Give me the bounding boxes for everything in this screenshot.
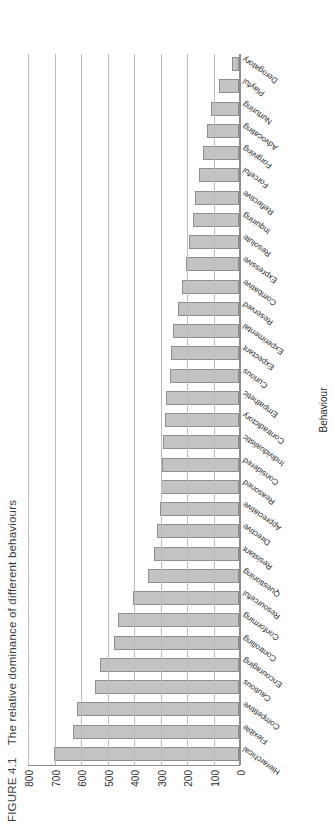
category-label-text: Curious — [241, 366, 269, 390]
category-label-text: Flexible — [241, 722, 269, 746]
category-label-text: Forceful — [241, 166, 270, 190]
value-gridline: 700 — [55, 54, 56, 765]
value-tick-label: 300 — [156, 770, 167, 787]
category-axis-title: Behaviour — [318, 54, 329, 766]
figure-number: FIGURE 4.1 — [6, 757, 18, 822]
value-gridline: 600 — [81, 54, 82, 765]
value-tick-label: 600 — [77, 770, 88, 787]
figure-caption-text: The relative dominance of different beha… — [6, 500, 18, 746]
value-gridline: 800 — [28, 54, 29, 765]
category-label-text: Playful — [241, 77, 266, 98]
value-gridline: 500 — [108, 54, 109, 765]
category-label-text: Hierarchical — [241, 745, 282, 777]
value-tick-label: 400 — [130, 770, 141, 787]
value-tick-label: 0 — [236, 770, 247, 776]
bar-fill — [77, 703, 239, 717]
value-gridline: 200 — [187, 54, 188, 765]
value-tick-label: 800 — [24, 770, 35, 787]
value-gridline: 300 — [161, 54, 162, 765]
category-axis-labels: HierarchicalFlexibleCompetitiveCautiousE… — [241, 54, 327, 766]
figure-caption: FIGURE 4.1The relative dominance of diff… — [6, 500, 18, 822]
value-tick-label: 500 — [103, 770, 114, 787]
value-tick-label: 200 — [183, 770, 194, 787]
value-tick-label: 700 — [50, 770, 61, 787]
figure-stage: FIGURE 4.1The relative dominance of diff… — [0, 0, 335, 830]
value-tick-label: 100 — [209, 770, 220, 787]
value-gridline: 400 — [134, 54, 135, 765]
